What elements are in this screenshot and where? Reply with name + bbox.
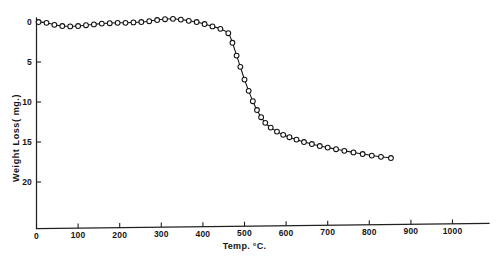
data-point-marker <box>234 53 239 58</box>
data-point-marker <box>309 142 314 147</box>
data-point-marker <box>99 21 104 26</box>
x-axis-ticks <box>37 219 453 228</box>
data-point-marker <box>84 23 89 28</box>
data-point-marker <box>131 20 136 25</box>
data-point-marker <box>242 77 247 82</box>
data-point-marker <box>36 20 41 25</box>
data-point-marker <box>147 19 152 24</box>
data-point-marker <box>194 20 199 25</box>
y-axis-ticks <box>37 22 42 182</box>
data-point-marker <box>218 26 223 31</box>
x-axis-title: Temp. °C. <box>223 241 267 251</box>
data-point-marker <box>255 108 260 113</box>
chart-plot-area <box>0 0 501 263</box>
data-point-marker <box>163 17 168 22</box>
data-point-marker <box>351 150 356 155</box>
data-point-marker <box>123 20 128 25</box>
data-point-marker <box>302 140 307 145</box>
data-point-marker <box>139 20 144 25</box>
data-point-marker <box>44 20 49 25</box>
x-tick-label: 0 <box>34 231 39 241</box>
data-point-marker <box>155 18 160 23</box>
data-point-marker <box>379 154 384 159</box>
data-point-marker <box>268 125 273 130</box>
x-tick-label: 1000 <box>443 226 463 236</box>
y-tick-label: 0 <box>14 17 32 27</box>
data-point-marker <box>325 145 330 150</box>
y-tick-label: 5 <box>14 57 32 67</box>
weight-loss-markers <box>36 16 393 160</box>
x-axis-spine <box>37 224 490 229</box>
x-tick-label: 800 <box>362 227 377 237</box>
data-point-marker <box>294 137 299 142</box>
data-point-marker <box>76 24 81 29</box>
data-point-marker <box>186 18 191 23</box>
data-point-marker <box>287 135 292 140</box>
y-axis-title: Weight Loss( mg.) <box>11 94 21 182</box>
data-point-marker <box>171 16 176 21</box>
x-tick-label: 300 <box>154 229 169 239</box>
data-point-marker <box>389 156 394 161</box>
data-point-marker <box>259 115 264 120</box>
data-point-marker <box>115 20 120 25</box>
data-point-marker <box>52 22 57 27</box>
data-point-marker <box>226 31 231 36</box>
data-point-marker <box>107 21 112 26</box>
x-tick-label: 400 <box>195 229 210 239</box>
x-tick-label: 100 <box>71 230 86 240</box>
weight-loss-curve <box>39 19 391 158</box>
data-point-marker <box>334 147 339 152</box>
data-point-marker <box>238 64 243 69</box>
x-tick-label: 500 <box>237 228 252 238</box>
data-point-marker <box>68 24 73 29</box>
x-tick-label: 700 <box>320 227 335 237</box>
data-point-marker <box>275 129 280 134</box>
data-point-marker <box>369 153 374 158</box>
x-tick-label: 600 <box>279 228 294 238</box>
data-point-marker <box>360 152 365 157</box>
data-point-marker <box>230 40 235 45</box>
data-point-marker <box>92 22 97 27</box>
data-point-marker <box>281 132 286 137</box>
x-tick-label: 900 <box>403 226 418 236</box>
data-point-marker <box>178 17 183 22</box>
data-point-marker <box>210 24 215 29</box>
data-point-marker <box>60 24 65 29</box>
data-point-marker <box>250 99 255 104</box>
x-tick-label: 200 <box>112 230 127 240</box>
data-point-marker <box>342 148 347 153</box>
thermogravimetric-chart: 01002003004005006007008009001000 0510152… <box>0 0 501 263</box>
data-point-marker <box>202 22 207 27</box>
data-point-marker <box>246 88 251 93</box>
data-point-marker <box>263 120 268 125</box>
data-point-marker <box>317 144 322 149</box>
